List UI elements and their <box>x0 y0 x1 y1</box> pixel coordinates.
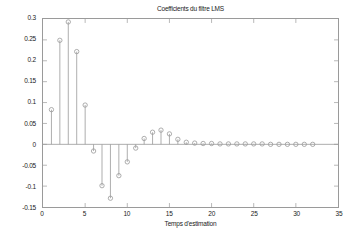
y-tick-label: 0.15 <box>2 77 36 84</box>
y-tick-label: -0.05 <box>2 162 36 169</box>
y-tick-label: 0.05 <box>2 120 36 127</box>
x-axis-label: Temps d'estimation <box>42 220 339 227</box>
x-tick-label: 25 <box>244 210 264 217</box>
data-markers-group <box>49 20 315 201</box>
x-tick-label: 0 <box>32 210 52 217</box>
x-tick-label: 20 <box>202 210 222 217</box>
y-tick-label: -0.1 <box>2 183 36 190</box>
figure-canvas: Coefficients du filtre LMS -0.15-0.1-0.0… <box>0 0 352 238</box>
y-tick-label: 0.2 <box>2 56 36 63</box>
stem-lines-group <box>51 22 312 198</box>
plot-area <box>42 18 339 208</box>
y-tick-label: -0.15 <box>2 204 36 211</box>
x-tick-label: 30 <box>287 210 307 217</box>
x-tick-label: 10 <box>117 210 137 217</box>
y-tick-label: 0.25 <box>2 35 36 42</box>
y-tick-label: 0 <box>2 141 36 148</box>
y-tick-label: 0.3 <box>2 14 36 21</box>
stem-plot <box>43 19 338 207</box>
chart-title: Coefficients du filtre LMS <box>42 5 339 12</box>
y-tick-label: 0.1 <box>2 98 36 105</box>
x-tick-label: 35 <box>329 210 349 217</box>
x-tick-label: 5 <box>74 210 94 217</box>
axis-ticks-group <box>43 19 338 207</box>
x-tick-label: 15 <box>159 210 179 217</box>
